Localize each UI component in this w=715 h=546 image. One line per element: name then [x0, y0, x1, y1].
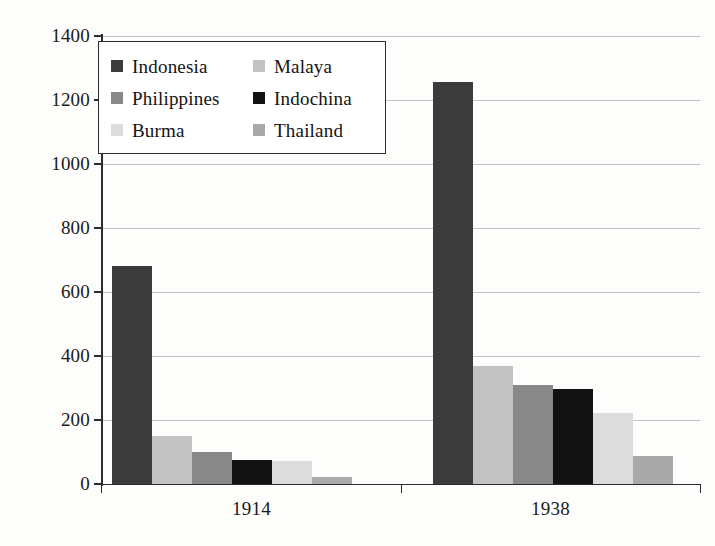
bar-philippines-1914 — [192, 452, 232, 484]
y-tick-label-text: 0 — [4, 474, 90, 493]
y-tick-label: 1000 — [0, 154, 90, 174]
legend-item-indonesia[interactable]: Indonesia — [111, 57, 253, 76]
legend-item-burma[interactable]: Burma — [111, 121, 253, 140]
legend-grid: IndonesiaMalayaPhilippinesIndochinaBurma… — [111, 50, 375, 146]
legend-label: Indochina — [274, 89, 352, 108]
y-tick-label-text: 800 — [4, 218, 90, 237]
x-tick-start — [101, 484, 102, 493]
bar-burma-1914 — [272, 461, 312, 484]
legend: IndonesiaMalayaPhilippinesIndochinaBurma… — [98, 41, 386, 154]
legend-swatch-icon — [111, 124, 123, 136]
legend-label: Philippines — [132, 89, 220, 108]
legend-item-thailand[interactable]: Thailand — [253, 121, 395, 140]
legend-item-malaya[interactable]: Malaya — [253, 57, 395, 76]
x-category-label-1938: 1938 — [491, 498, 611, 520]
x-tick-end — [700, 484, 701, 493]
y-tick-label-text: 200 — [4, 410, 90, 429]
bar-thailand-1914 — [312, 477, 352, 484]
legend-swatch-icon — [253, 60, 265, 72]
legend-swatch-icon — [111, 60, 123, 72]
bar-indochina-1938 — [553, 389, 593, 484]
y-tick-label-text: 600 — [4, 282, 90, 301]
y-tick-label: 1200 — [0, 90, 90, 110]
bar-philippines-1938 — [513, 385, 553, 484]
legend-label: Burma — [132, 121, 185, 140]
legend-label: Thailand — [274, 121, 343, 140]
legend-item-indochina[interactable]: Indochina — [253, 89, 395, 108]
y-tick-label: 1400 — [0, 26, 90, 46]
x-tick-middle — [401, 484, 402, 493]
legend-swatch-icon — [253, 124, 265, 136]
bar-malaya-1914 — [152, 436, 192, 484]
y-tick-label-text: 400 — [4, 346, 90, 365]
y-tick-label-text: 1000 — [4, 154, 90, 173]
legend-swatch-icon — [111, 92, 123, 104]
x-category-label-1914: 1914 — [192, 498, 312, 520]
legend-label: Malaya — [274, 57, 332, 76]
bar-indochina-1914 — [232, 460, 272, 484]
y-tick-label: 200 — [0, 410, 90, 430]
y-tick-label: 400 — [0, 346, 90, 366]
bar-malaya-1938 — [473, 366, 513, 484]
y-tick-label-text: 1200 — [4, 90, 90, 109]
y-tick-label: 0 — [0, 474, 90, 494]
legend-swatch-icon — [253, 92, 265, 104]
bar-burma-1938 — [593, 413, 633, 484]
bar-thailand-1938 — [633, 456, 673, 484]
legend-label: Indonesia — [132, 57, 208, 76]
bar-indonesia-1914 — [112, 266, 152, 484]
y-tick-label: 600 — [0, 282, 90, 302]
bar-indonesia-1938 — [433, 82, 473, 484]
y-tick-label-text: 1400 — [4, 26, 90, 45]
y-tick-label: 800 — [0, 218, 90, 238]
bar-chart: 0200400600800100012001400 19141938 Indon… — [0, 0, 715, 546]
legend-item-philippines[interactable]: Philippines — [111, 89, 253, 108]
